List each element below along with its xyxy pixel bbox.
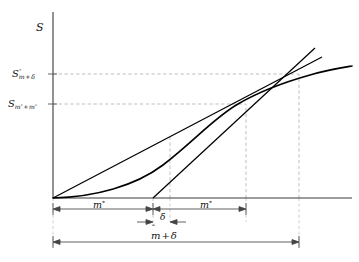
y-axis-label: S xyxy=(36,22,44,33)
dimension-label-m-star-left: m* xyxy=(93,200,105,210)
dimension-label-delta: δ xyxy=(160,213,165,222)
value-label-S-mhat-delta: Sm̂ + δ xyxy=(12,69,35,80)
dimension-label-m-star-right: m* xyxy=(200,200,212,210)
figure-canvas xyxy=(0,0,359,262)
sigmoid-curve xyxy=(53,66,352,198)
value-label-S-mstar-plus-mstar: Sm* + m* xyxy=(8,99,37,110)
chord-through-inflection-line xyxy=(153,48,315,198)
dimension-bars xyxy=(53,203,299,248)
dimension-label-m-hat-plus-delta: m̂ + δ xyxy=(151,231,177,241)
figure-root: S Sm̂ + δ Sm* + m* m* δ m* m̂ + δ xyxy=(0,0,359,262)
axes xyxy=(53,12,352,198)
